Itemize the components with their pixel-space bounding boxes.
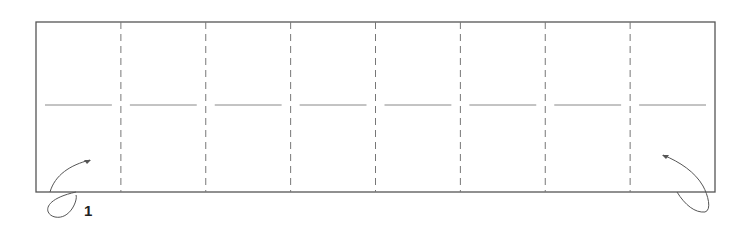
fold-arrow-right (663, 155, 709, 212)
valley-fold-lines (121, 22, 630, 192)
fold-diagram (0, 0, 752, 228)
fold-arrow-left-head (84, 160, 91, 164)
step-number: 1 (84, 203, 92, 218)
